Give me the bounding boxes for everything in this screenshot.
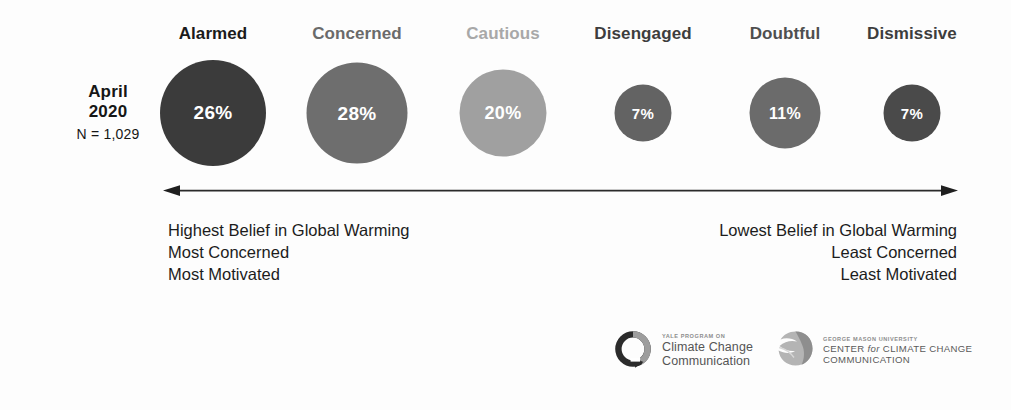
segment-bubble-doubtful: 11% (750, 78, 821, 149)
segment-label-doubtful: Doubtful (750, 24, 821, 44)
circular-arrow-ring-icon (612, 328, 654, 374)
six-americas-infographic: April 2020 N = 1,029 Alarmed Concerned C… (0, 0, 1011, 410)
yale-logo-text: YALE PROGRAM ON Climate Change Communica… (662, 333, 753, 369)
footer-logos: YALE PROGRAM ON Climate Change Communica… (612, 328, 972, 374)
gmu-mason-plume-icon (775, 329, 815, 373)
segment-label-cautious: Cautious (466, 24, 540, 44)
belief-continuum-axis (163, 182, 958, 200)
segment-label-alarmed: Alarmed (179, 24, 248, 44)
segment-label-concerned: Concerned (312, 24, 402, 44)
segment-bubble-cautious: 20% (460, 70, 547, 157)
segment-bubble-dismissive: 7% (884, 85, 941, 142)
segment-bubble-concerned: 28% (307, 63, 408, 164)
yale-logo-kicker: YALE PROGRAM ON (662, 333, 753, 340)
survey-year: 2020 (58, 102, 158, 122)
gmu-logo-line-2: COMMUNICATION (823, 354, 972, 365)
continuum-description-right: Lowest Belief in Global Warming Least Co… (719, 219, 957, 285)
yale-program-logo: YALE PROGRAM ON Climate Change Communica… (612, 328, 753, 374)
continuum-description-left: Highest Belief in Global Warming Most Co… (168, 219, 410, 285)
gmu-logo-climate-change-words: CLIMATE CHANGE (880, 343, 973, 354)
gmu-logo-line-1: CENTER for CLIMATE CHANGE (823, 343, 972, 354)
segment-bubble-disengaged: 7% (615, 85, 672, 142)
gmu-logo-for-word: for (868, 343, 880, 354)
yale-logo-line-2: Communication (662, 354, 753, 369)
segment-label-dismissive: Dismissive (867, 24, 957, 44)
survey-sample-size: N = 1,029 (58, 124, 158, 144)
yale-logo-line-1: Climate Change (662, 340, 753, 355)
axis-arrow-icon (163, 182, 958, 200)
gmu-logo-text: GEORGE MASON UNIVERSITY CENTER for CLIMA… (823, 336, 972, 365)
gmu-logo-center-word: CENTER (823, 343, 868, 354)
segment-bubble-alarmed: 26% (160, 60, 266, 166)
gmu-center-logo: GEORGE MASON UNIVERSITY CENTER for CLIMA… (775, 329, 972, 373)
segment-label-disengaged: Disengaged (594, 24, 691, 44)
gmu-logo-kicker: GEORGE MASON UNIVERSITY (823, 336, 972, 343)
survey-date-block: April 2020 N = 1,029 (58, 82, 158, 144)
survey-month: April (58, 82, 158, 102)
